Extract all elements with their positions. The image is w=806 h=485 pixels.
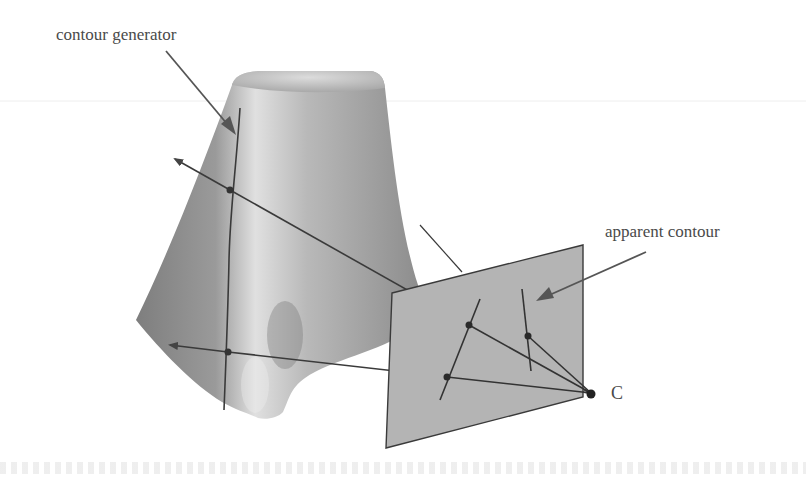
contour-generator-pointer bbox=[166, 51, 233, 131]
surface bbox=[136, 71, 420, 419]
page-bleedthrough-text bbox=[0, 462, 806, 474]
surface-point-upper bbox=[227, 187, 234, 194]
surface-point-lower bbox=[225, 349, 232, 356]
camera-center-label: C bbox=[611, 383, 623, 404]
image-plane bbox=[386, 245, 591, 448]
figure-canvas bbox=[0, 0, 806, 485]
camera-center-point bbox=[587, 390, 596, 399]
contour-projection-figure: contour generator apparent contour C bbox=[0, 0, 806, 485]
apparent-contour-label: apparent contour bbox=[605, 222, 720, 242]
contour-generator-label: contour generator bbox=[56, 25, 176, 45]
